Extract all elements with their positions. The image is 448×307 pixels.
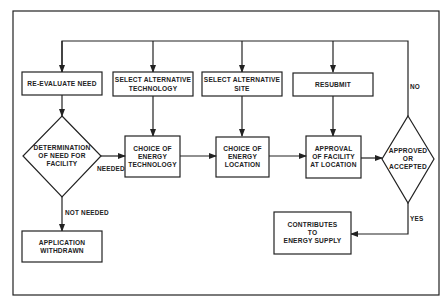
node-choice-of-energy-technology: CHOICE OF ENERGY TECHNOLOGY: [125, 136, 180, 177]
svg-text:ACCEPTED: ACCEPTED: [389, 163, 427, 170]
svg-text:APPLICATION: APPLICATION: [39, 239, 85, 246]
svg-text:OF FACILITY: OF FACILITY: [312, 153, 355, 160]
svg-text:RESUBMIT: RESUBMIT: [315, 81, 351, 88]
node-resubmit: RESUBMIT: [293, 73, 373, 96]
node-select-alternative-technology: SELECT ALTERNATIVE TECHNOLOGY: [113, 72, 193, 96]
svg-text:DETERMINATION: DETERMINATION: [33, 144, 90, 151]
edge-label-yes: YES: [410, 215, 424, 222]
svg-text:OF NEED FOR: OF NEED FOR: [38, 152, 85, 159]
svg-text:RE-EVALUATE NEED: RE-EVALUATE NEED: [27, 80, 96, 87]
svg-text:SELECT ALTERNATIVE: SELECT ALTERNATIVE: [115, 76, 192, 83]
flowchart: RE-EVALUATE NEED SELECT ALTERNATIVE TECH…: [0, 0, 448, 307]
svg-text:LOCATION: LOCATION: [225, 161, 261, 168]
svg-text:TECHNOLOGY: TECHNOLOGY: [129, 85, 178, 92]
node-choice-of-energy-location: CHOICE OF ENERGY LOCATION: [216, 137, 269, 177]
svg-text:WITHDRAWN: WITHDRAWN: [40, 247, 84, 254]
node-approval-of-facility: APPROVAL OF FACILITY AT LOCATION: [306, 136, 361, 178]
svg-text:SELECT ALTERNATIVE: SELECT ALTERNATIVE: [204, 76, 281, 83]
svg-text:APPROVED: APPROVED: [389, 147, 428, 154]
svg-text:ENERGY: ENERGY: [138, 153, 167, 160]
svg-text:CONTRIBUTES: CONTRIBUTES: [288, 221, 338, 228]
svg-text:TECHNOLOGY: TECHNOLOGY: [128, 161, 177, 168]
svg-text:CHOICE OF: CHOICE OF: [223, 145, 261, 152]
svg-text:TO: TO: [308, 229, 317, 236]
node-application-withdrawn: APPLICATION WITHDRAWN: [22, 231, 102, 262]
svg-text:CHOICE OF: CHOICE OF: [133, 145, 171, 152]
svg-text:ENERGY: ENERGY: [228, 153, 257, 160]
node-determination-of-need: DETERMINATION OF NEED FOR FACILITY: [23, 116, 101, 197]
node-reevaluate-need: RE-EVALUATE NEED: [22, 72, 102, 95]
svg-text:SITE: SITE: [234, 85, 250, 92]
svg-text:ENERGY SUPPLY: ENERGY SUPPLY: [284, 237, 342, 244]
edge-label-no: NO: [410, 83, 420, 90]
svg-text:FACILITY: FACILITY: [47, 160, 78, 167]
edge-label-not-needed: NOT NEEDED: [65, 209, 109, 216]
node-approved-or-accepted: APPROVED OR ACCEPTED: [382, 116, 434, 203]
svg-text:APPROVAL: APPROVAL: [315, 145, 353, 152]
svg-text:AT LOCATION: AT LOCATION: [310, 161, 356, 168]
node-contributes-to-energy-supply: CONTRIBUTES TO ENERGY SUPPLY: [274, 212, 351, 254]
edge-label-needed: NEEDED: [97, 165, 125, 172]
node-select-alternative-site: SELECT ALTERNATIVE SITE: [202, 72, 282, 96]
svg-text:OR: OR: [403, 155, 413, 162]
arrow-approved-to-contributes: [351, 203, 408, 234]
